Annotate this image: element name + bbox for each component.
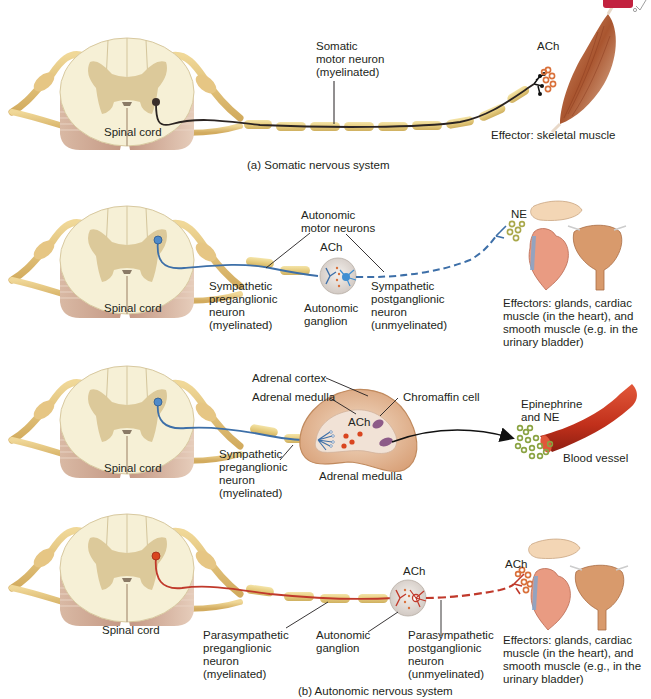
autonomic-ganglion-label-b3: Autonomic ganglion bbox=[316, 629, 370, 655]
spinal-cord-label-b2: Spinal cord bbox=[104, 462, 162, 475]
somatic-motor-neuron-label: Somatic motor neuron (myelinated) bbox=[316, 40, 384, 79]
spinal-cord-label-b1: Spinal cord bbox=[104, 302, 162, 315]
effector-organs-b3 bbox=[529, 539, 628, 630]
spinal-cord-label-a: Spinal cord bbox=[104, 126, 162, 139]
gland-icon bbox=[529, 539, 580, 558]
ach-label-b3-ganglion: ACh bbox=[403, 565, 425, 578]
caption-autonomic-nervous-system: (b) Autonomic nervous system bbox=[298, 685, 453, 698]
adrenal-cortex-label: Adrenal cortex bbox=[252, 372, 326, 385]
ne-vesicles-b1 bbox=[507, 221, 524, 240]
autonomic-ganglion-b1 bbox=[320, 258, 356, 294]
ach-label-b3-effector: ACh bbox=[505, 558, 527, 571]
autonomic-ganglion-label-b1: Autonomic ganglion bbox=[304, 302, 358, 328]
spinal-cord-label-b3: Spinal cord bbox=[102, 624, 160, 637]
parasympathetic-preganglionic-label: Parasympathetic preganglionic neuron (my… bbox=[203, 629, 289, 681]
urinary-bladder-icon bbox=[575, 565, 623, 630]
sympathetic-postganglionic-label: Sympathetic postganglionic neuron (unmye… bbox=[371, 280, 447, 332]
skeletal-muscle bbox=[552, 4, 616, 132]
sympathetic-preganglionic-label-b2: Sympathetic preganglionic neuron (myelin… bbox=[219, 448, 287, 500]
ach-label-b1: ACh bbox=[320, 241, 342, 254]
autonomic-motor-neurons-label: Autonomic motor neurons bbox=[301, 209, 375, 235]
effectors-label-b3: Effectors: glands, cardiac muscle (in th… bbox=[503, 634, 641, 686]
blood-vessel-label: Blood vessel bbox=[563, 452, 628, 465]
epinephrine-ne-label: Epinephrine and NE bbox=[521, 398, 582, 424]
parasympathetic-cell-body bbox=[152, 552, 160, 560]
autonomic-ganglion-b3 bbox=[390, 580, 426, 616]
neuron-pathway-diagram: Somatic motor neuron (myelinated) ACh Sp… bbox=[0, 0, 651, 699]
urinary-bladder-icon bbox=[573, 225, 621, 290]
sympathetic-preganglionic-label-b1: Sympathetic preganglionic neuron (myelin… bbox=[209, 280, 277, 332]
chromaffin-cell-label: Chromaffin cell bbox=[403, 391, 480, 404]
adrenal-medulla-inner-label: Adrenal medulla bbox=[252, 391, 335, 404]
caption-somatic-nervous-system: (a) Somatic nervous system bbox=[247, 159, 390, 172]
effector-organs-b1 bbox=[529, 201, 626, 290]
panel-b3-parasympathetic bbox=[12, 514, 628, 636]
sympathetic-cell-body-b1 bbox=[154, 236, 162, 244]
parasympathetic-postganglionic-label: Parasympathetic postganglionic neuron (u… bbox=[408, 629, 494, 681]
gland-icon bbox=[531, 201, 582, 220]
sympathetic-cell-body-b2 bbox=[154, 398, 162, 406]
ne-label-b1: NE bbox=[511, 208, 527, 221]
corner-decoration bbox=[603, 0, 633, 8]
effectors-label-b1: Effectors: glands, cardiac muscle (in th… bbox=[503, 297, 638, 349]
ach-vesicles-a bbox=[542, 67, 556, 91]
ach-label-b2: ACh bbox=[348, 416, 370, 429]
effector-skeletal-muscle-label: Effector: skeletal muscle bbox=[491, 129, 615, 142]
somatic-cell-body bbox=[152, 98, 160, 106]
spinal-cord-b3 bbox=[12, 514, 240, 626]
adrenal-medulla-label: Adrenal medulla bbox=[319, 470, 402, 483]
ach-label-a: ACh bbox=[537, 40, 559, 53]
